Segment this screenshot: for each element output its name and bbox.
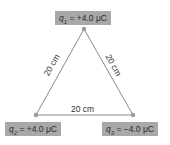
charge-subscript: 1 [64,19,67,25]
vertex-q3 [131,113,135,117]
vertex-q1 [82,27,86,31]
charge-subscript: 2 [14,130,17,136]
charge-value: = +4.0 μC [69,13,107,23]
charge-label-q1: q1 = +4.0 μC [55,11,111,25]
charge-label-q2: q2 = +4.0 μC [5,122,61,136]
edge-q1-q3 [84,29,133,115]
charge-value: = +4.0 μC [19,124,57,134]
charge-subscript: 3 [111,130,114,136]
edge-label-bottom: 20 cm [71,104,94,114]
charge-label-q3: q3 = −4.0 μC [102,122,158,136]
vertex-q2 [34,113,38,117]
charge-value: = −4.0 μC [116,124,154,134]
